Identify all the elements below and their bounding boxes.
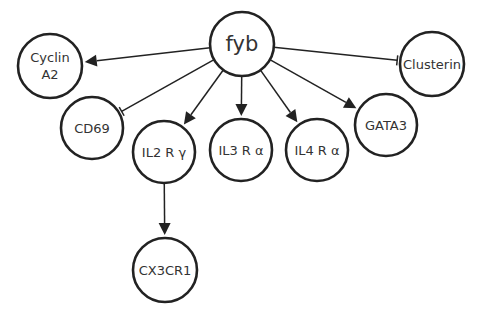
node-label: GATA3	[365, 118, 407, 133]
interaction-diagram: fybCyclinA2CD69IL2 R γIL3 R αIL4 R αGATA…	[0, 0, 481, 317]
node-label: Clusterin	[403, 57, 461, 72]
edge-fyb-to-cyclin_a2-activation	[85, 48, 210, 67]
edge-line	[122, 60, 214, 112]
edge-line	[270, 60, 346, 103]
node-label: CX3CR1	[139, 263, 192, 278]
node-label: A2	[41, 67, 58, 82]
arrowhead-icon	[184, 111, 196, 124]
node-il2rg: IL2 R γ	[133, 121, 195, 183]
node-circle	[18, 34, 82, 98]
node-label: IL4 R α	[294, 143, 339, 158]
edge-line	[274, 47, 397, 60]
inhibition-bar-icon	[397, 55, 398, 65]
arrowhead-icon	[286, 109, 298, 122]
node-label: fyb	[226, 32, 259, 56]
arrowhead-icon	[235, 104, 247, 116]
edge-fyb-to-il4ra-activation	[260, 70, 297, 122]
node-cx3cr1: CX3CR1	[133, 238, 197, 302]
node-gata3: GATA3	[355, 94, 417, 156]
node-label: CD69	[74, 121, 110, 136]
arrowhead-icon	[85, 55, 98, 67]
edge-line	[191, 70, 223, 115]
node-label: IL3 R α	[218, 143, 263, 158]
edge-fyb-to-cd69-inhibition	[119, 60, 214, 116]
node-cyclin_a2: CyclinA2	[18, 34, 82, 98]
node-cd69: CD69	[61, 97, 123, 159]
edge-fyb-to-clusterin-inhibition	[274, 47, 398, 65]
node-il4ra: IL4 R α	[286, 119, 348, 181]
node-label: IL2 R γ	[142, 145, 187, 160]
edge-fyb-to-il2rg-activation	[184, 70, 223, 124]
node-il3ra: IL3 R α	[210, 119, 272, 181]
node-label: Cyclin	[30, 50, 69, 65]
edge-line	[260, 70, 290, 112]
edge-il2rg-to-cx3cr1-activation	[159, 183, 171, 235]
node-fyb: fyb	[210, 12, 274, 76]
edge-fyb-to-il3ra-activation	[235, 76, 247, 116]
arrowhead-icon	[159, 223, 171, 235]
edge-line	[97, 48, 211, 61]
node-clusterin: Clusterin	[400, 32, 464, 96]
